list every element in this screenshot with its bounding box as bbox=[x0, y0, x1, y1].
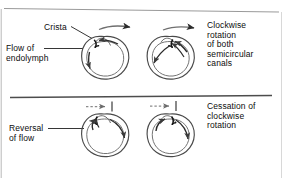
label-reversal-of-flow: Reversal of flow bbox=[9, 124, 43, 143]
divider-middle bbox=[10, 96, 272, 98]
stopped-rotation-arrow-bottom-right bbox=[150, 101, 176, 111]
caption-cessation-of-rotation: Cessation of clockwise rotation bbox=[207, 102, 255, 131]
canal-bottom-left bbox=[82, 114, 129, 157]
rotation-arrow-top bbox=[99, 26, 130, 29]
canal-bottom-right bbox=[147, 114, 194, 157]
canal-top-left bbox=[82, 36, 129, 79]
leader-line-crista bbox=[71, 27, 92, 39]
semicircular-canal-figure: Crista Flow of endolymph Clockwise rotat… bbox=[0, 0, 283, 179]
divider-top bbox=[4, 9, 279, 13]
caption-clockwise-rotation: Clockwise rotation of both semicircular … bbox=[207, 21, 254, 69]
canal-top-right bbox=[147, 36, 194, 79]
stopped-rotation-arrow-bottom-left bbox=[86, 102, 112, 112]
rotation-arrow-top-right bbox=[163, 27, 194, 30]
label-crista: Crista bbox=[44, 23, 67, 33]
label-flow-of-endolymph: Flow of endolymph bbox=[6, 44, 48, 63]
